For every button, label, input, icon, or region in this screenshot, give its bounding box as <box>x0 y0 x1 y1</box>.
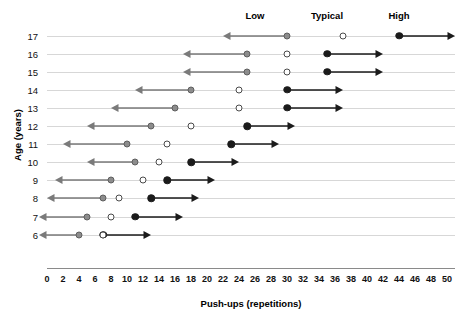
high-marker-age-14 <box>283 86 291 94</box>
low-marker-age-9 <box>108 177 115 184</box>
low-range-arrow-age-15 <box>183 66 247 77</box>
high-range-arrow-age-12 <box>247 121 295 132</box>
low-range-arrow-age-17 <box>223 30 287 41</box>
low-range-arrow-age-10 <box>87 157 135 168</box>
x-axis-tick-26: 26 <box>250 274 260 284</box>
low-range-arrow-age-8 <box>47 193 103 204</box>
typical-marker-age-13 <box>236 104 243 111</box>
low-range-arrow-age-9 <box>55 175 111 186</box>
low-range-arrow-age-6 <box>39 229 79 240</box>
low-marker-age-14 <box>188 86 195 93</box>
y-axis-tick-15: 15 <box>10 66 38 77</box>
high-range-arrow-age-14 <box>287 84 343 95</box>
high-marker-age-15 <box>323 68 331 76</box>
high-marker-age-17 <box>395 32 403 40</box>
x-axis-tick-18: 18 <box>186 274 196 284</box>
x-axis-tick-0: 0 <box>44 274 49 284</box>
high-range-arrow-age-9 <box>167 175 215 186</box>
x-axis-tick-50: 50 <box>442 274 452 284</box>
typical-marker-age-9 <box>140 177 147 184</box>
gridline-age-16 <box>47 54 455 55</box>
gridline-age-13 <box>47 108 455 109</box>
typical-marker-age-8 <box>116 195 123 202</box>
gridline-age-8 <box>47 198 455 199</box>
low-marker-age-12 <box>148 123 155 130</box>
x-axis-tick-4: 4 <box>76 274 81 284</box>
high-range-arrow-age-6 <box>103 229 151 240</box>
typical-marker-age-10 <box>156 159 163 166</box>
x-axis-tick-46: 46 <box>410 274 420 284</box>
high-range-arrow-age-8 <box>151 193 199 204</box>
x-axis-tick-38: 38 <box>346 274 356 284</box>
y-axis-tick-6: 6 <box>10 229 38 240</box>
x-axis-tick-34: 34 <box>314 274 324 284</box>
high-marker-age-10 <box>187 158 195 166</box>
typical-marker-age-17 <box>340 32 347 39</box>
typical-marker-age-14 <box>236 86 243 93</box>
high-marker-age-12 <box>243 122 251 130</box>
x-axis-tick-30: 30 <box>282 274 292 284</box>
x-axis-tick-14: 14 <box>154 274 164 284</box>
band-label-low: Low <box>246 10 265 21</box>
x-axis-tick-40: 40 <box>362 274 372 284</box>
x-axis-tick-8: 8 <box>108 274 113 284</box>
gridline-age-15 <box>47 72 455 73</box>
typical-marker-age-7 <box>108 213 115 220</box>
x-axis-tick-12: 12 <box>138 274 148 284</box>
y-axis-tick-16: 16 <box>10 48 38 59</box>
high-marker-age-8 <box>147 195 155 203</box>
high-range-arrow-age-17 <box>399 30 455 41</box>
high-range-arrow-age-15 <box>327 66 383 77</box>
low-marker-age-10 <box>132 159 139 166</box>
high-range-arrow-age-10 <box>191 157 239 168</box>
low-marker-age-11 <box>124 141 131 148</box>
x-axis-tick-10: 10 <box>122 274 132 284</box>
low-range-arrow-age-14 <box>135 84 191 95</box>
gridline-age-14 <box>47 90 455 91</box>
high-marker-age-11 <box>227 140 235 148</box>
x-axis-tick-2: 2 <box>60 274 65 284</box>
low-marker-age-8 <box>100 195 107 202</box>
low-marker-age-7 <box>84 213 91 220</box>
typical-marker-age-16 <box>284 50 291 57</box>
typical-marker-age-12 <box>188 123 195 130</box>
y-axis-tick-9: 9 <box>10 175 38 186</box>
low-range-arrow-age-12 <box>87 121 151 132</box>
push-ups-by-age-chart: LowTypicalHigh17161514131211109876Age (y… <box>0 0 467 320</box>
band-label-high: High <box>388 10 409 21</box>
high-range-arrow-age-7 <box>135 211 183 222</box>
x-axis-line <box>47 268 455 269</box>
y-axis-tick-7: 7 <box>10 211 38 222</box>
low-marker-age-16 <box>244 50 251 57</box>
low-marker-age-13 <box>172 104 179 111</box>
high-marker-age-16 <box>323 50 331 58</box>
low-marker-age-17 <box>284 32 291 39</box>
x-axis-title: Push-ups (repetitions) <box>201 298 302 309</box>
low-marker-age-15 <box>244 68 251 75</box>
x-axis-tick-44: 44 <box>394 274 404 284</box>
low-range-arrow-age-16 <box>183 48 247 59</box>
x-axis-tick-6: 6 <box>92 274 97 284</box>
x-axis-tick-42: 42 <box>378 274 388 284</box>
x-axis-tick-16: 16 <box>170 274 180 284</box>
typical-marker-age-6 <box>100 231 107 238</box>
high-range-arrow-age-11 <box>231 139 279 150</box>
high-range-arrow-age-16 <box>327 48 383 59</box>
x-axis-tick-48: 48 <box>426 274 436 284</box>
low-range-arrow-age-11 <box>63 139 127 150</box>
x-axis-tick-36: 36 <box>330 274 340 284</box>
y-axis-tick-8: 8 <box>10 193 38 204</box>
x-axis-tick-22: 22 <box>218 274 228 284</box>
x-axis-tick-20: 20 <box>202 274 212 284</box>
high-marker-age-13 <box>283 104 291 112</box>
x-axis-tick-24: 24 <box>234 274 244 284</box>
y-axis-tick-17: 17 <box>10 30 38 41</box>
typical-marker-age-15 <box>284 68 291 75</box>
y-axis-title: Age (years) <box>12 109 23 161</box>
low-range-arrow-age-13 <box>111 102 175 113</box>
band-label-typical: Typical <box>311 10 343 21</box>
x-axis-tick-28: 28 <box>266 274 276 284</box>
x-axis-tick-32: 32 <box>298 274 308 284</box>
high-range-arrow-age-13 <box>287 102 343 113</box>
y-axis-tick-14: 14 <box>10 84 38 95</box>
